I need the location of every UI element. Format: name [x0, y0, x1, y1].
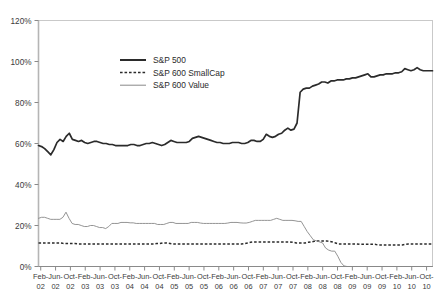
x-tick-label-year: 10	[408, 282, 416, 291]
legend-label-3: S&P 600 Value	[153, 80, 209, 90]
y-tick-label: 100%	[11, 58, 32, 67]
x-tick-label-month: Feb-	[300, 272, 316, 281]
x-tick-label-month: Feb-	[122, 272, 138, 281]
x-tick-label-month: Jun-	[48, 272, 63, 281]
x-tick-label-month: Jun-	[405, 272, 420, 281]
x-tick-label-month: Feb-	[33, 272, 49, 281]
x-tick-label-year: 03	[81, 282, 89, 291]
x-tick-label-year: 04	[155, 282, 163, 291]
x-tick-label-month: Feb-	[211, 272, 227, 281]
x-tick-label-month: Jun-	[360, 272, 375, 281]
x-tick-label-year: 10	[422, 282, 430, 291]
x-tick-label-year: 04	[126, 282, 134, 291]
x-tick-label-year: 09	[363, 282, 371, 291]
x-tick-label-month: Oct-	[108, 272, 122, 281]
x-tick-label-year: 03	[111, 282, 119, 291]
y-tick-label: 0%	[20, 263, 32, 272]
y-tick-label: 80%	[15, 99, 31, 108]
x-tick-label-month: Feb-	[256, 272, 272, 281]
x-tick-label-year: 08	[319, 282, 327, 291]
x-tick-label-year: 02	[66, 282, 74, 291]
x-tick-label-year: 06	[215, 282, 223, 291]
x-tick-label-year: 06	[230, 282, 238, 291]
line-chart: 0%20%40%60%80%100%120% Feb-02Jun-02Oct-0…	[0, 0, 444, 303]
x-tick-label-month: Oct-	[152, 272, 166, 281]
x-tick-label-year: 09	[348, 282, 356, 291]
plot-area-border	[39, 21, 433, 267]
x-tick-label-year: 05	[170, 282, 178, 291]
x-tick-label-year: 06	[244, 282, 252, 291]
x-tick-label-month: Jun-	[226, 272, 241, 281]
x-tick-label-month: Oct-	[242, 272, 256, 281]
x-tick-label-year: 09	[378, 282, 386, 291]
x-tick-label-month: Jun-	[315, 272, 330, 281]
x-tick-label-year: 04	[140, 282, 148, 291]
x-tick-label-month: Oct-	[63, 272, 77, 281]
x-tick-label-year: 08	[304, 282, 312, 291]
legend-label-2: S&P 600 SmallCap	[153, 68, 225, 78]
y-axis: 0%20%40%60%80%100%120%	[11, 17, 39, 272]
y-tick-label: 40%	[15, 181, 31, 190]
x-tick-label-year: 03	[96, 282, 104, 291]
x-tick-label-year: 05	[185, 282, 193, 291]
x-tick-label-month: Oct-	[420, 272, 434, 281]
x-tick-label-year: 07	[274, 282, 282, 291]
x-tick-label-year: 02	[51, 282, 59, 291]
y-tick-label: 120%	[11, 17, 32, 26]
chart-container: 0%20%40%60%80%100%120% Feb-02Jun-02Oct-0…	[0, 0, 444, 303]
x-tick-label-month: Oct-	[331, 272, 345, 281]
x-tick-label-year: 07	[289, 282, 297, 291]
x-axis: Feb-02Jun-02Oct-02Feb-03Jun-03Oct-03Feb-…	[33, 267, 434, 292]
x-tick-label-year: 10	[393, 282, 401, 291]
x-tick-label-year: 05	[200, 282, 208, 291]
x-tick-label-year: 02	[37, 282, 45, 291]
x-tick-label-year: 08	[333, 282, 341, 291]
y-tick-label: 60%	[15, 140, 31, 149]
x-tick-label-month: Feb-	[389, 272, 405, 281]
x-tick-label-month: Feb-	[167, 272, 183, 281]
x-tick-label-month: Jun-	[271, 272, 286, 281]
x-tick-label-month: Jun-	[137, 272, 152, 281]
y-tick-label: 20%	[15, 222, 31, 231]
x-tick-label-month: Jun-	[182, 272, 197, 281]
legend-label-1: S&P 500	[153, 55, 186, 65]
x-tick-label-month: Jun-	[93, 272, 108, 281]
x-tick-label-month: Oct-	[197, 272, 211, 281]
x-tick-label-month: Oct-	[286, 272, 300, 281]
x-tick-label-month: Feb-	[345, 272, 361, 281]
x-tick-label-month: Feb-	[78, 272, 94, 281]
x-tick-label-year: 07	[259, 282, 267, 291]
x-tick-label-month: Oct-	[375, 272, 389, 281]
